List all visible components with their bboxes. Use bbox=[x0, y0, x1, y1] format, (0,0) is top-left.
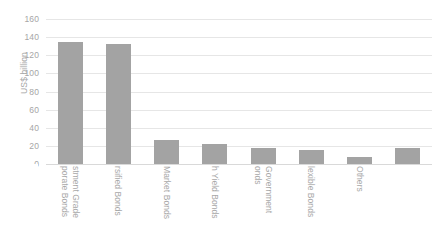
x-axis-category-label: h Yield Bonds bbox=[210, 166, 221, 219]
bar[interactable] bbox=[202, 144, 227, 164]
label-crop-mask bbox=[0, 164, 38, 241]
x-axis-category-label: stment Gradeporate Bonds bbox=[60, 166, 81, 218]
x-label-slot: h Yield Bonds bbox=[191, 166, 239, 241]
x-axis-category-label: Governmentonds bbox=[253, 166, 274, 213]
bar-slot bbox=[143, 19, 191, 164]
bar-slot bbox=[239, 19, 287, 164]
x-axis-category-labels: stment Gradeporate Bondsrsified BondsMar… bbox=[46, 166, 432, 241]
y-axis-tick-label: 160 bbox=[25, 15, 39, 24]
y-axis-tick-label: 60 bbox=[29, 105, 39, 114]
bar-slot bbox=[94, 19, 142, 164]
y-axis-tick-label: 100 bbox=[25, 69, 39, 78]
bar-slot bbox=[384, 19, 432, 164]
x-label-slot: Others bbox=[336, 166, 384, 241]
bar[interactable] bbox=[347, 157, 372, 164]
bar[interactable] bbox=[58, 42, 83, 164]
bar[interactable] bbox=[106, 44, 131, 164]
x-axis-category-label: Market Bonds bbox=[161, 166, 172, 219]
plot-area bbox=[46, 19, 432, 164]
x-label-slot: Market Bonds bbox=[143, 166, 191, 241]
bar-chart: US$ billion 160140120100806040200 stment… bbox=[0, 0, 442, 241]
gridline bbox=[46, 164, 432, 165]
x-label-slot: stment Gradeporate Bonds bbox=[46, 166, 94, 241]
bar-slot bbox=[191, 19, 239, 164]
bar-slot bbox=[46, 19, 94, 164]
bar-series bbox=[46, 19, 432, 164]
x-axis-category-label: lexible Bonds bbox=[306, 166, 317, 217]
y-axis-tick-label: 120 bbox=[25, 51, 39, 60]
x-axis-category-label: rsified Bonds bbox=[113, 166, 124, 216]
x-label-slot: rsified Bonds bbox=[94, 166, 142, 241]
y-axis-tick-label: 80 bbox=[29, 87, 39, 96]
y-axis-tick-labels: 160140120100806040200 bbox=[0, 19, 44, 164]
bar[interactable] bbox=[251, 148, 276, 164]
bar[interactable] bbox=[395, 148, 420, 164]
bar[interactable] bbox=[154, 140, 179, 164]
x-axis-category-label: Others bbox=[354, 166, 365, 192]
x-label-slot: lexible Bonds bbox=[287, 166, 335, 241]
x-label-slot: Governmentonds bbox=[239, 166, 287, 241]
y-axis-tick-label: 40 bbox=[29, 123, 39, 132]
bar[interactable] bbox=[299, 150, 324, 165]
bar-slot bbox=[336, 19, 384, 164]
y-axis-tick-label: 140 bbox=[25, 33, 39, 42]
y-axis-tick-label: 20 bbox=[29, 141, 39, 150]
bar-slot bbox=[287, 19, 335, 164]
x-label-slot bbox=[384, 166, 432, 241]
